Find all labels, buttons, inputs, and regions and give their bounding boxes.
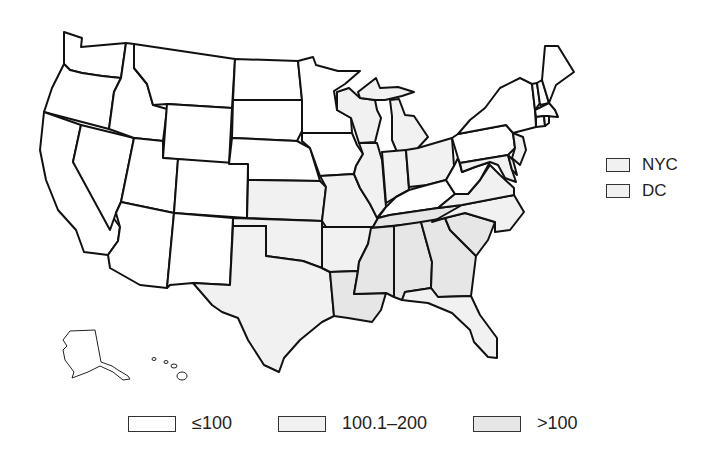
legend-item-nyc: NYC: [606, 152, 678, 178]
state-NM: [167, 213, 233, 288]
legend-label: ≤100: [192, 413, 232, 434]
state-ND: [233, 59, 302, 100]
state-MI-UP: [358, 78, 414, 100]
state-ME: [542, 46, 574, 103]
state-CO: [174, 159, 248, 218]
rate-legend: ≤100 100.1–200 >100: [128, 413, 624, 434]
state-KS: [247, 180, 326, 221]
legend-label: NYC: [642, 155, 678, 175]
legend-label: 100.1–200: [342, 413, 427, 434]
state-HI-4: [177, 372, 187, 380]
state-AZ: [108, 202, 174, 288]
state-HI-1: [152, 358, 156, 361]
state-HI-3: [171, 364, 177, 368]
legend-swatch: [128, 416, 176, 432]
state-NY: [458, 78, 536, 134]
legend-item-dc: DC: [606, 178, 678, 204]
legend-item-high: >100: [473, 413, 578, 434]
state-RI: [544, 116, 549, 126]
legend-swatch: [606, 184, 630, 198]
legend-swatch: [473, 416, 521, 432]
state-NJ: [512, 133, 526, 165]
legend-swatch: [278, 416, 326, 432]
state-MI: [390, 99, 428, 152]
legend-label: >100: [537, 413, 578, 434]
state-HI-2: [164, 361, 168, 364]
city-legend: NYC DC: [606, 152, 678, 204]
legend-label: DC: [642, 181, 667, 201]
state-SD: [232, 100, 302, 141]
legend-item-mid: 100.1–200: [278, 413, 427, 434]
legend-swatch: [606, 158, 630, 172]
legend-item-low: ≤100: [128, 413, 232, 434]
state-WY: [163, 104, 232, 164]
state-AK: [63, 330, 130, 380]
state-FL: [402, 288, 497, 358]
